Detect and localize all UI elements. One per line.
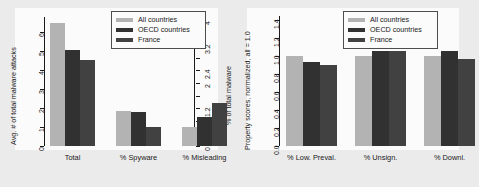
x-axis-label: % Misleading (168, 153, 241, 162)
chart-panel-property-scores: Property scores, normalized, all = 1.0 0… (233, 0, 465, 187)
x-axis-label: Total (36, 153, 109, 162)
legend-item: OECD countries (116, 25, 200, 35)
legend-label-oecd-countries: OECD countries (370, 25, 422, 35)
bar (424, 56, 441, 146)
bar (146, 127, 161, 146)
legend-item: All countries (116, 15, 200, 25)
x-axis-label: % Spyware (102, 153, 175, 162)
legend-label-all-countries: All countries (138, 15, 177, 25)
x-axis-label: % Unsign. (341, 153, 420, 162)
legend-swatch-all-countries (116, 18, 133, 22)
bar (212, 103, 227, 146)
legend-label-oecd-countries: OECD countries (138, 25, 190, 35)
legend-item: France (116, 35, 200, 45)
bar (355, 56, 372, 146)
legend-label-france: France (138, 35, 160, 45)
legend-swatch-oecd-countries (348, 28, 365, 32)
legend-swatch-all-countries (348, 18, 365, 22)
bar (50, 23, 65, 146)
chart-panel-malware-attacks: Avg. # of total malware attacks % of tot… (0, 0, 232, 187)
legend-swatch-france (116, 38, 133, 42)
legend-left: All countries OECD countries France (111, 11, 206, 49)
bar (65, 50, 80, 146)
bar (197, 117, 212, 146)
legend-item: France (348, 35, 432, 45)
legend-label-all-countries: All countries (370, 15, 409, 25)
legend-right: All countries OECD countries France (343, 11, 438, 49)
bar (303, 62, 320, 146)
bar (131, 112, 146, 146)
bar (372, 51, 389, 146)
x-axis-label: % Downl. (410, 153, 479, 162)
legend-swatch-oecd-countries (116, 28, 133, 32)
bar (80, 60, 95, 146)
bar (389, 51, 406, 146)
legend-label-france: France (370, 35, 392, 45)
legend-swatch-france (348, 38, 365, 42)
bar (320, 65, 337, 146)
legend-item: OECD countries (348, 25, 432, 35)
bar (441, 51, 458, 146)
legend-item: All countries (348, 15, 432, 25)
bar (458, 59, 475, 146)
bar (182, 127, 197, 146)
x-axis-label: % Low. Preval. (272, 153, 351, 162)
bar (286, 56, 303, 146)
bar (116, 111, 131, 146)
